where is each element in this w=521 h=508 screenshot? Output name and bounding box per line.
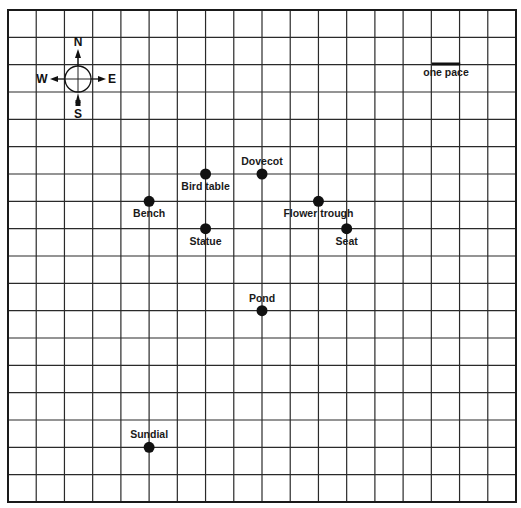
compass-north-label: N	[74, 35, 83, 49]
compass-west-label: W	[36, 72, 48, 86]
landmark-seat: Seat	[336, 223, 359, 247]
landmark-dot-icon	[144, 196, 155, 207]
landmarks: DovecotBird tableBenchFlower troughStatu…	[130, 155, 358, 453]
south-arrow-icon	[76, 93, 81, 106]
landmark-dot-icon	[200, 223, 211, 234]
landmark-label: Bird table	[181, 180, 230, 192]
landmark-statue: Statue	[190, 223, 222, 247]
landmark-label: Dovecot	[241, 155, 283, 167]
landmark-label: Statue	[190, 235, 222, 247]
landmark-dot-icon	[257, 305, 268, 316]
landmark-bird-table: Bird table	[181, 169, 230, 193]
landmark-bench: Bench	[133, 196, 165, 220]
landmark-label: Sundial	[130, 428, 168, 440]
west-arrow-icon	[50, 76, 65, 82]
landmark-label: Pond	[249, 292, 275, 304]
scale-label: one pace	[423, 66, 469, 78]
landmark-dot-icon	[341, 223, 352, 234]
compass-east-label: E	[108, 72, 116, 86]
landmark-dot-icon	[257, 169, 268, 180]
landmark-flower-trough: Flower trough	[283, 196, 353, 220]
compass-rose: N S E W	[36, 35, 116, 121]
landmark-dot-icon	[200, 169, 211, 180]
landmark-label: Bench	[133, 207, 165, 219]
landmark-dot-icon	[144, 442, 155, 453]
landmark-label: Seat	[336, 235, 359, 247]
garden-map: N S E W one pace DovecotBird tableBenchF…	[0, 0, 521, 508]
north-arrow-icon	[75, 49, 81, 66]
compass-south-label: S	[74, 107, 82, 121]
grid	[8, 10, 516, 502]
landmark-dot-icon	[313, 196, 324, 207]
landmark-label: Flower trough	[283, 207, 353, 219]
